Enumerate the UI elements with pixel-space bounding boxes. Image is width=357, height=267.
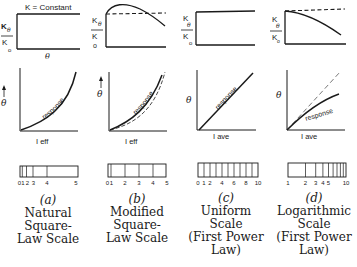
caption-line: Law Scale <box>93 232 181 245</box>
panel-d: K θ K o θ response I ave <box>270 9 350 186</box>
response-plot-d: θ response I ave <box>276 70 345 141</box>
y-label-theta: θ <box>186 95 192 105</box>
scale-tick-label: 5 <box>327 180 331 186</box>
y-label-denominator: K <box>2 38 8 47</box>
y-label-theta: θ <box>97 89 103 99</box>
scale-tick-label: 1 <box>202 180 206 186</box>
scale-tick-label: 1 <box>286 180 290 186</box>
caption-line: Law) <box>270 244 357 257</box>
y-label-numerator-sub: θ <box>187 21 191 28</box>
scale-tick-label: 3 <box>314 180 318 186</box>
scale-tick-label: 2 <box>123 180 127 186</box>
scale-tick-label: 6 <box>232 180 236 186</box>
x-label: I eff <box>125 137 138 146</box>
y-label-denominator-sub: o <box>93 42 97 49</box>
scale-bar-b: 0 1 2 3 4 5 <box>106 164 170 186</box>
caption-line: Law Scale <box>4 233 92 246</box>
sensitivity-plot-b: K θ K o <box>91 5 166 49</box>
y-label-numerator-sub: θ <box>98 20 102 27</box>
scale-bar-d: 1 2 3 4 5 10 <box>286 163 350 186</box>
x-label: I eff <box>36 137 49 146</box>
sensitivity-curve-b <box>106 5 165 26</box>
reference-square-law-dashed <box>110 72 165 130</box>
y-label-numerator-sub: θ <box>276 22 280 29</box>
sensitivity-curve-c <box>196 11 255 12</box>
scale-tick-label: 10 <box>343 180 350 186</box>
caption-line: Law) <box>182 244 270 257</box>
scale-tick-label: 10 <box>255 180 262 186</box>
scale-tick-label: 4 <box>45 180 49 186</box>
scale-tick-label: 1 <box>110 180 114 186</box>
response-plot-b: θ response I eff <box>97 72 167 146</box>
panel-a: K = Constant K θ K o θ θ response I eff <box>1 3 80 186</box>
constant-annotation: K = Constant <box>25 3 72 12</box>
caption-a: (a) Natural Square- Law Scale <box>4 194 92 246</box>
y-label-theta: θ <box>276 90 282 100</box>
scale-tick-label: 0 <box>196 180 200 186</box>
response-label: response <box>214 85 239 111</box>
y-label-numerator-sub: θ <box>7 26 11 33</box>
scale-tick-label: 8 <box>244 180 248 186</box>
reference-dashed-line <box>106 13 166 14</box>
scale-tick-label: 4 <box>321 180 325 186</box>
arrow-up-icon-head <box>2 85 6 90</box>
y-label-denominator-sub: o <box>277 38 280 44</box>
response-curve-a <box>21 72 76 130</box>
arrow-up-icon-head <box>99 76 103 81</box>
scale-tick-label: 3 <box>137 180 141 186</box>
scale-tick-label: 5 <box>165 180 169 186</box>
y-label-denominator-sub: o <box>189 40 193 46</box>
scale-tick-label: 2 <box>304 180 308 186</box>
reference-linear-dashed <box>287 72 340 130</box>
y-label-theta: θ <box>1 98 7 108</box>
y-label-denominator: K <box>92 32 98 41</box>
response-plot-a: θ response I eff <box>1 68 78 146</box>
scale-tick-label: 2 <box>208 180 212 186</box>
scale-bar-c: 0 1 2 4 6 8 10 <box>196 163 262 186</box>
scale-tick-label: 4 <box>220 180 224 186</box>
sensitivity-curve-d <box>285 11 341 35</box>
caption-d: (d) Logarithmic Scale (First Power Law) <box>270 192 357 257</box>
scale-tick-label: 5 <box>74 180 78 186</box>
panel-c: K θ K o θ response I ave <box>181 11 262 186</box>
sensitivity-plot-a: K = Constant K θ K o θ <box>1 3 80 61</box>
scale-tick-label: 1 <box>21 180 25 186</box>
response-label: response <box>304 107 334 123</box>
x-label: I ave <box>213 132 229 141</box>
response-label: response <box>41 96 66 120</box>
sensitivity-plot-c: K θ K o <box>181 11 255 46</box>
caption-c: (c) Uniform Scale (First Power Law) <box>182 192 270 257</box>
response-curve-b <box>110 75 162 130</box>
sensitivity-plot-d: K θ K o <box>270 9 346 44</box>
x-label-theta: θ <box>45 52 50 61</box>
reference-dashed-line <box>285 9 345 11</box>
scale-bar-a: 0 1 2 3 4 5 <box>18 166 79 186</box>
caption-b: (b) Modified Square- Law Scale <box>93 193 181 245</box>
scale-tick-label: 3 <box>32 180 36 186</box>
scale-tick-label: 4 <box>151 180 155 186</box>
response-label: response <box>132 90 155 116</box>
panel-b: K θ K o θ response I eff 0 <box>91 5 169 186</box>
scale-tick-label: 2 <box>26 180 30 186</box>
y-label-denominator-sub: o <box>8 47 12 53</box>
x-label: I ave <box>301 132 317 141</box>
response-plot-c: θ response I ave <box>186 70 256 141</box>
